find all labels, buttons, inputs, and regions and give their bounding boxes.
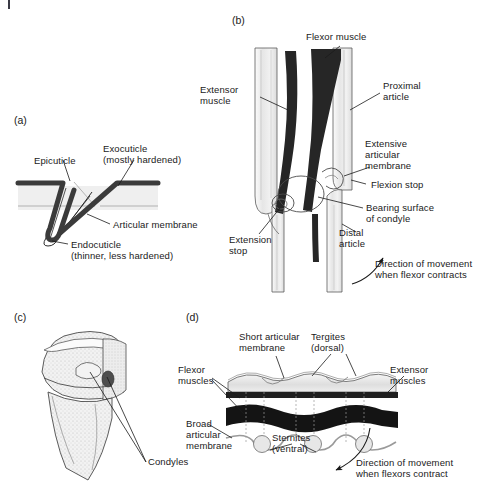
leader-flexion-stop: [351, 180, 366, 184]
panel-c-drawing: [42, 332, 146, 481]
label-flexion-stop: Flexion stop: [371, 179, 423, 190]
label-tergites-dorsal: Tergites (dorsal): [311, 331, 345, 353]
panel-d-id: (d): [186, 311, 199, 323]
label-direction-of-movement-b: Direction of movement when flexor contra…: [375, 258, 472, 280]
label-extensive-articular-membrane: Extensive articular membrane: [365, 138, 411, 171]
label-short-articular-membrane: Short articular membrane: [239, 331, 300, 353]
label-proximal-article: Proximal article: [383, 80, 421, 102]
condyle-right-face: [103, 339, 126, 400]
label-bearing-surface-of-condyle: Bearing surface of condyle: [366, 202, 434, 224]
panel-b-id: (b): [232, 14, 245, 26]
label-endocuticle: Endocuticle (thinner, less hardened): [71, 239, 173, 261]
flexor-muscle-distal-tendon: [312, 214, 319, 262]
sternite-plate-3: [356, 436, 373, 453]
label-epicuticle: Epicuticle: [34, 155, 76, 166]
label-flexor-muscles-d: Flexor muscles: [178, 364, 214, 386]
label-extensor-muscle: Extensor muscle: [200, 84, 238, 106]
extensor-muscle-band-d: [226, 392, 398, 398]
leader-tergites-2: [346, 354, 356, 376]
label-broad-articular-membrane: Broad articular membrane: [186, 418, 232, 451]
label-articular-membrane-a: Articular membrane: [113, 219, 198, 230]
label-sternites-ventral: Sternites (ventral): [272, 432, 310, 454]
figure-page: (a) (b) (c) (d) Epicuticle Exocuticle (m…: [0, 0, 493, 495]
leader-articular-membrane: [87, 214, 110, 224]
label-distal-article: Distal article: [339, 227, 365, 249]
label-condyles: Condyles: [148, 456, 188, 467]
label-flexor-muscle: Flexor muscle: [306, 31, 366, 42]
distal-article-left-wall: [272, 203, 284, 292]
flexor-muscle-band-d: [226, 404, 398, 432]
label-exocuticle: Exocuticle (mostly hardened): [103, 143, 181, 165]
tergites-plates: [228, 374, 396, 392]
sternite-plate-1: [254, 436, 271, 453]
label-extension-stop: Extension stop: [229, 234, 272, 256]
panel-c-id: (c): [14, 311, 26, 323]
panel-a-id: (a): [14, 114, 27, 126]
panel-b-drawing: [255, 46, 383, 292]
leader-proximal-article: [350, 93, 380, 110]
proximal-article-left-wall: [255, 48, 277, 214]
leader-short-articular-membrane: [276, 356, 284, 378]
distal-article-body-c: [48, 392, 112, 480]
label-extensor-muscles-d: Extensor muscles: [390, 364, 428, 386]
leader-condyle-2: [107, 377, 146, 462]
label-direction-of-movement-d: Direction of movement when flexors contr…: [356, 457, 453, 479]
panel-a-drawing: [18, 160, 158, 246]
